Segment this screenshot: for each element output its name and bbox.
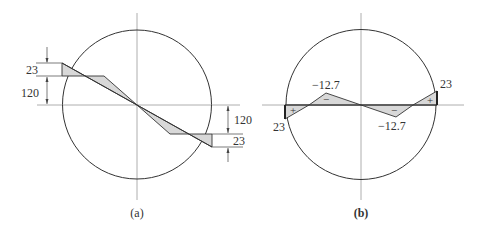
shaded-right-minus xyxy=(361,105,413,117)
caption-b: (b) xyxy=(354,206,369,220)
arrowhead-icon xyxy=(46,77,49,82)
arrowhead-icon xyxy=(46,58,49,63)
arrowhead-icon xyxy=(227,128,230,133)
label-left-peak: −12.7 xyxy=(312,78,340,92)
arrowhead-icon xyxy=(227,106,230,111)
arrowhead-icon xyxy=(46,99,49,104)
label-bottom-23: 23 xyxy=(233,134,245,148)
label-bottom-120: 120 xyxy=(234,113,252,127)
shaded-left-plus xyxy=(285,105,309,119)
arrowhead-icon xyxy=(227,148,230,153)
label-top-23: 23 xyxy=(26,63,38,77)
label-right-trough: −12.7 xyxy=(378,119,406,133)
stress-diagram: 23 120 120 23 (a) + − − + 23 −12.7 −12.7… xyxy=(0,0,482,232)
label-left-23: 23 xyxy=(273,120,285,134)
caption-a: (a) xyxy=(130,206,143,220)
sign-right-minus: − xyxy=(391,104,397,116)
panel-a: 23 120 120 23 (a) xyxy=(21,13,252,220)
label-top-120: 120 xyxy=(21,86,39,100)
shaded-right-plus xyxy=(413,91,437,105)
shaded-left-minus xyxy=(309,93,361,105)
sign-right-plus: + xyxy=(427,94,433,106)
label-right-23: 23 xyxy=(440,77,452,91)
panel-b: + − − + 23 −12.7 −12.7 23 (b) xyxy=(262,13,464,220)
sign-left-minus: − xyxy=(323,93,329,105)
sign-left-plus: + xyxy=(290,104,296,116)
